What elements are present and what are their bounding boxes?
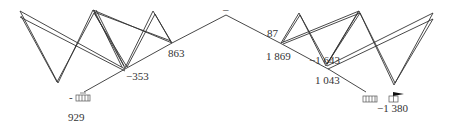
label-left-dash: - bbox=[69, 91, 73, 103]
right-building-icon bbox=[363, 96, 377, 102]
left-building-icon bbox=[76, 93, 90, 101]
right-zigzag-inner bbox=[283, 13, 433, 83]
left-double-1 bbox=[94, 10, 122, 67]
label-863: 863 bbox=[168, 47, 185, 59]
left-cross-2 bbox=[20, 17, 125, 71]
label-87: 87 bbox=[267, 27, 279, 39]
right-cross-4 bbox=[328, 19, 433, 69]
diagram-lines bbox=[20, 10, 433, 92]
line-diagram: 929 - −353 863 – 87 1 869 −1 643 1 043 −… bbox=[0, 0, 452, 127]
label-neg-1643: −1 643 bbox=[309, 54, 340, 66]
label-top-dash: – bbox=[222, 3, 229, 15]
label-neg-1380: −1 380 bbox=[377, 102, 408, 114]
label-1043: 1 043 bbox=[315, 74, 340, 86]
label-neg-353: −353 bbox=[126, 70, 149, 82]
flag-icon bbox=[393, 92, 404, 96]
label-1869: 1 869 bbox=[266, 50, 291, 62]
left-zigzag-outer bbox=[20, 10, 172, 83]
label-929: 929 bbox=[68, 111, 85, 123]
left-cross-4 bbox=[94, 12, 171, 41]
